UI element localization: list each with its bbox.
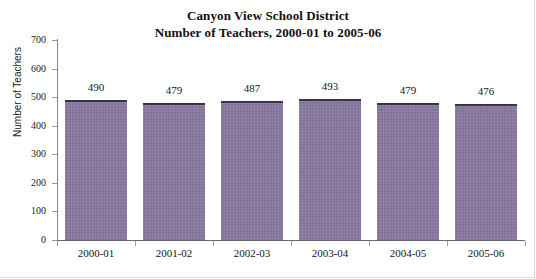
plot-area	[57, 40, 525, 240]
chart-title-line-2: Number of Teachers, 2000-01 to 2005-06	[0, 24, 536, 41]
y-axis-tick-label: 300	[2, 149, 46, 159]
bar-chart-figure: Canyon View School District Number of Te…	[0, 0, 536, 279]
x-axis-tick	[291, 241, 292, 246]
bar	[143, 103, 205, 240]
bar-value-label: 479	[143, 85, 205, 96]
bar	[221, 101, 283, 240]
x-axis-category-label: 2001-02	[135, 247, 213, 259]
bar-value-label: 487	[221, 83, 283, 94]
chart-title-line-1: Canyon View School District	[0, 7, 536, 24]
bar	[299, 99, 361, 240]
y-axis-tick-label: 600	[2, 64, 46, 74]
bar	[377, 103, 439, 240]
bar	[455, 104, 517, 240]
chart-title: Canyon View School District Number of Te…	[0, 7, 536, 41]
x-axis-category-label: 2000-01	[57, 247, 135, 259]
x-axis-category-label: 2004-05	[369, 247, 447, 259]
x-axis-category-label: 2002-03	[213, 247, 291, 259]
bar-value-label: 476	[455, 86, 517, 97]
bar-value-label: 479	[377, 85, 439, 96]
bar	[65, 100, 127, 240]
y-axis-tick-label: 200	[2, 178, 46, 188]
x-axis-tick	[525, 241, 526, 246]
x-axis-category-label: 2005-06	[447, 247, 525, 259]
bar-value-label: 490	[65, 82, 127, 93]
x-axis-tick	[57, 241, 58, 246]
x-axis-tick	[135, 241, 136, 246]
y-axis-tick-label: 0	[2, 235, 46, 245]
x-axis-tick	[213, 241, 214, 246]
y-axis-tick-label: 700	[2, 35, 46, 45]
bar-value-label: 493	[299, 81, 361, 92]
x-axis-tick	[369, 241, 370, 246]
x-axis-category-label: 2003-04	[291, 247, 369, 259]
x-axis-tick	[447, 241, 448, 246]
y-axis-tick-label: 500	[2, 92, 46, 102]
y-axis-tick-label: 400	[2, 121, 46, 131]
y-axis-tick-label: 100	[2, 206, 46, 216]
